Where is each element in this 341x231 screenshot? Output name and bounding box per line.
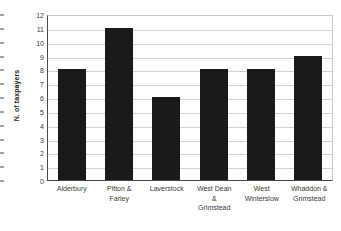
y-axis-tick-label: 5 <box>26 108 44 115</box>
bar[interactable] <box>58 69 86 180</box>
y-axis-tick-label: 1 <box>26 164 44 171</box>
y-axis-tick-label: 10 <box>26 39 44 46</box>
bar-slot <box>95 16 142 180</box>
y-axis-tick-mark <box>0 153 4 154</box>
bar[interactable] <box>200 69 228 180</box>
y-axis-tick-label: 9 <box>26 53 44 60</box>
bar-series <box>48 16 332 180</box>
y-axis-tick-label: 12 <box>26 12 44 19</box>
y-axis-tick-mark <box>0 98 4 99</box>
y-axis-tick-mark <box>0 181 4 182</box>
bar[interactable] <box>247 69 275 180</box>
bar[interactable] <box>294 56 322 181</box>
bar-chart: N. of taxpayers 1211109876543210 Alderbu… <box>0 0 341 231</box>
x-axis-category-label: Whaddon &Grimstead <box>286 184 334 231</box>
y-axis-tick-label: 4 <box>26 122 44 129</box>
y-axis-tick-label: 2 <box>26 150 44 157</box>
y-axis-tick-labels: 1211109876543210 <box>26 15 44 181</box>
x-axis-category-label: Pitton &Farley <box>96 184 144 231</box>
y-axis-tick-label: 3 <box>26 136 44 143</box>
y-axis-tick-mark <box>0 125 4 126</box>
y-axis-tick-mark <box>0 28 4 29</box>
y-axis-tick-label: 11 <box>26 25 44 32</box>
y-axis-tick-mark <box>0 70 4 71</box>
x-axis-category-labels: AlderburyPitton &FarleyLaverstockWest De… <box>48 184 333 231</box>
y-axis-tick-mark <box>0 42 4 43</box>
bar[interactable] <box>105 28 133 180</box>
y-axis-tick-mark <box>0 139 4 140</box>
y-axis-tick-mark <box>0 167 4 168</box>
bar-slot <box>48 16 95 180</box>
bar[interactable] <box>152 97 180 180</box>
y-axis-tick-label: 6 <box>26 95 44 102</box>
y-axis-tick-mark <box>0 111 4 112</box>
y-axis-title-text: N. of taxpayers <box>14 69 21 121</box>
x-axis-category-label: West Dean&Grimstead <box>191 184 239 231</box>
y-axis-tick-marks <box>0 15 4 181</box>
bar-slot <box>143 16 190 180</box>
x-axis-category-label: Alderbury <box>48 184 96 231</box>
y-axis-tick-mark <box>0 84 4 85</box>
y-axis-tick-label: 0 <box>26 178 44 185</box>
plot-area <box>47 15 333 181</box>
x-axis-category-label: WestWinterslow <box>238 184 286 231</box>
y-axis-tick-label: 8 <box>26 67 44 74</box>
y-axis-tick-mark <box>0 15 4 16</box>
y-axis-tick-label: 7 <box>26 81 44 88</box>
bar-slot <box>190 16 237 180</box>
y-axis-tick-mark <box>0 56 4 57</box>
bar-slot <box>237 16 284 180</box>
bar-slot <box>285 16 332 180</box>
x-axis-category-label: Laverstock <box>143 184 191 231</box>
